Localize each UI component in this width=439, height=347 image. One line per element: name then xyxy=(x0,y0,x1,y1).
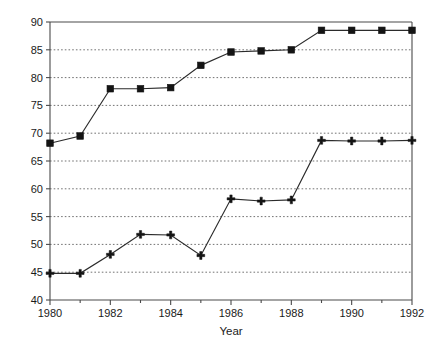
x-axis-title: Year xyxy=(219,325,242,337)
data-point-marker-plus xyxy=(76,269,84,277)
data-point-marker-square xyxy=(77,133,84,140)
data-point-marker-square xyxy=(198,62,205,69)
y-tick-label: 45 xyxy=(31,266,43,278)
series-upper-series xyxy=(47,27,416,146)
data-point-marker-square xyxy=(288,47,295,54)
data-point-marker-plus xyxy=(197,252,205,260)
y-tick-label: 55 xyxy=(31,211,43,223)
x-tick-label: 1992 xyxy=(400,307,424,319)
x-tick-label: 1986 xyxy=(219,307,243,319)
y-tick-label: 70 xyxy=(31,127,43,139)
y-tick-label: 50 xyxy=(31,238,43,250)
data-point-marker-plus xyxy=(378,137,386,145)
series-lower-series xyxy=(46,137,416,278)
chart-container: 4045505560657075808590 19801982198419861… xyxy=(0,0,439,347)
data-point-marker-square xyxy=(348,27,355,34)
y-axis-tick-labels: 4045505560657075808590 xyxy=(31,16,43,306)
y-tick-label: 80 xyxy=(31,72,43,84)
data-point-marker-plus xyxy=(227,195,235,203)
y-tick-label: 85 xyxy=(31,44,43,56)
series-polyline xyxy=(50,30,412,143)
y-tick-label: 40 xyxy=(31,294,43,306)
line-chart: 4045505560657075808590 19801982198419861… xyxy=(0,0,439,347)
data-point-marker-square xyxy=(409,27,416,34)
x-tick-label: 1988 xyxy=(279,307,303,319)
data-point-marker-plus xyxy=(137,230,145,238)
data-point-marker-plus xyxy=(287,196,295,204)
data-point-marker-plus xyxy=(167,231,175,239)
x-tick-label: 1982 xyxy=(98,307,122,319)
y-axis-ticks xyxy=(46,22,50,300)
data-point-marker-square xyxy=(47,140,54,147)
data-point-marker-plus xyxy=(408,137,416,145)
data-point-marker-square xyxy=(258,48,265,55)
series-polyline xyxy=(50,140,412,273)
x-tick-label: 1984 xyxy=(158,307,182,319)
y-tick-label: 60 xyxy=(31,183,43,195)
x-axis-tick-labels: 1980198219841986198819901992 xyxy=(38,307,424,319)
x-tick-label: 1990 xyxy=(339,307,363,319)
y-tick-label: 75 xyxy=(31,99,43,111)
data-point-marker-plus xyxy=(257,197,265,205)
data-point-marker-square xyxy=(107,85,114,92)
x-tick-label: 1980 xyxy=(38,307,62,319)
data-point-marker-square xyxy=(167,84,174,91)
data-point-marker-square xyxy=(379,27,386,34)
data-point-marker-square xyxy=(318,27,325,34)
data-point-marker-square xyxy=(137,85,144,92)
x-axis-ticks xyxy=(50,300,412,305)
gridlines-group xyxy=(50,50,412,272)
data-point-marker-plus xyxy=(46,269,54,277)
y-tick-label: 90 xyxy=(31,16,43,28)
data-series-layer xyxy=(46,27,416,277)
data-point-marker-plus xyxy=(106,251,114,259)
y-tick-label: 65 xyxy=(31,155,43,167)
data-point-marker-square xyxy=(228,49,235,56)
data-point-marker-plus xyxy=(318,137,326,145)
data-point-marker-plus xyxy=(348,137,356,145)
